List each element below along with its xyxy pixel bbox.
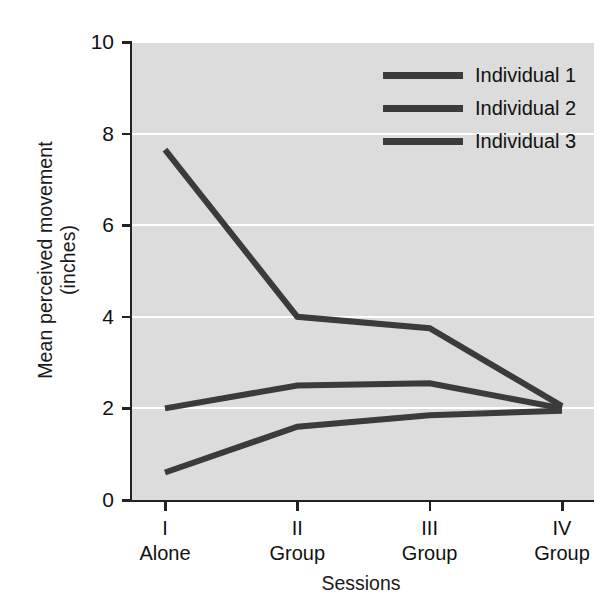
legend-item: Individual 2 [383, 97, 576, 119]
legend-item: Individual 3 [383, 130, 576, 152]
y-axis-title: Mean perceived movement (inches) [29, 95, 85, 425]
x-axis-tick-label-condition: Group [402, 541, 458, 566]
x-axis-tick-label-condition: Group [534, 541, 590, 566]
legend-line-swatch-icon [383, 72, 463, 79]
x-axis-tick [429, 500, 432, 511]
series-line-1 [165, 150, 562, 406]
y-axis-tick-label: 4 [102, 305, 114, 329]
legend-item-label: Individual 2 [475, 97, 576, 120]
y-axis-tick: 4 [122, 316, 132, 319]
x-axis-tick-label-session: III [402, 516, 458, 541]
y-axis-title-line-2: (inches) [57, 225, 80, 295]
y-axis-tick-label: 10 [91, 30, 114, 54]
x-axis-tick-label-condition: Alone [139, 541, 190, 566]
y-axis-tick: 2 [122, 407, 132, 410]
series-line-2 [165, 383, 562, 408]
y-axis-tick-label: 0 [102, 488, 114, 512]
y-axis-tick: 8 [122, 133, 132, 136]
x-axis-tick-label-session: I [139, 516, 190, 541]
x-axis-tick [296, 500, 299, 511]
y-axis-tick: 0 [122, 499, 132, 502]
x-axis-tick-label-session: IV [534, 516, 590, 541]
x-axis-tick-label: IAlone [139, 516, 190, 566]
y-axis-tick-label: 8 [102, 122, 114, 146]
y-axis-tick-label: 6 [102, 213, 114, 237]
x-axis-tick-label-session: II [270, 516, 326, 541]
series-line-3 [165, 411, 562, 473]
y-axis-title-line-1: Mean perceived movement [34, 141, 57, 379]
legend-line-swatch-icon [383, 138, 463, 145]
x-axis-tick [164, 500, 167, 511]
line-chart-figure: Mean perceived movement (inches) 0246810… [0, 0, 611, 612]
y-axis-tick-label: 2 [102, 396, 114, 420]
y-axis-tick: 10 [122, 41, 132, 44]
x-axis-tick-label: IIGroup [270, 516, 326, 566]
x-axis-tick [561, 500, 564, 511]
legend-item-label: Individual 3 [475, 130, 576, 153]
legend-item: Individual 1 [383, 64, 576, 86]
x-axis-tick-label-condition: Group [270, 541, 326, 566]
y-axis-tick: 6 [122, 224, 132, 227]
x-axis-tick-label: IVGroup [534, 516, 590, 566]
legend-item-label: Individual 1 [475, 64, 576, 87]
legend-line-swatch-icon [383, 105, 463, 112]
x-axis-title: Sessions [130, 572, 592, 595]
x-axis-tick-label: IIIGroup [402, 516, 458, 566]
chart-legend: Individual 1Individual 2Individual 3 [383, 64, 576, 152]
